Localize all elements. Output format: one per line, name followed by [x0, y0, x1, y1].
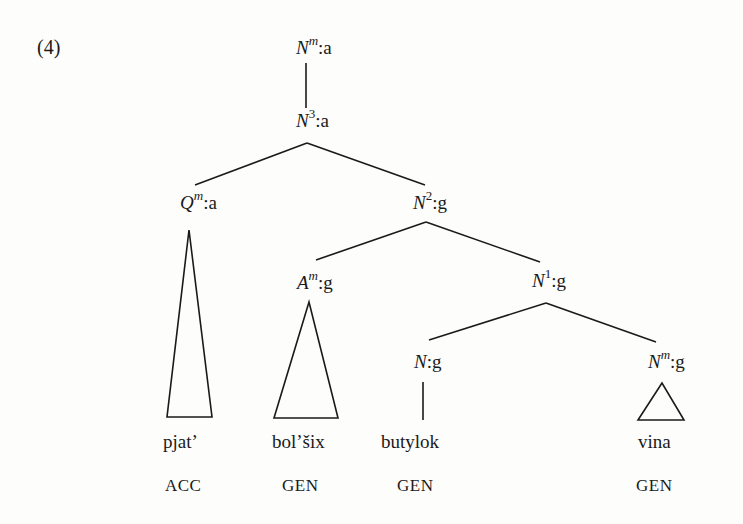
node-feature: :g [670, 351, 685, 372]
node-feature: :a [315, 110, 329, 131]
node-feature: :g [318, 272, 333, 293]
leaf-word-bolsix: bol’šix [272, 431, 325, 453]
node-n3: N3:a [296, 110, 329, 132]
node-sup: m [309, 33, 318, 48]
leaf-word-pjat: pjat’ [163, 431, 198, 453]
node-cat: N [296, 110, 309, 131]
node-cat: Q [180, 192, 194, 213]
node-sup: m [194, 188, 203, 203]
edge-n1-nm [546, 303, 656, 342]
node-root: Nm:a [296, 37, 332, 59]
node-sup: 3 [309, 106, 316, 121]
edge-n3-qm [195, 143, 307, 185]
leaf-word-vina: vina [638, 431, 671, 453]
triangle-qm [167, 230, 212, 417]
node-qm: Qm:a [180, 192, 217, 214]
edge-n2-am [316, 222, 426, 260]
node-n1: N1:g [532, 270, 566, 292]
node-feature: :g [551, 270, 566, 291]
example-number: (4) [37, 36, 60, 58]
node-cat: N [648, 351, 661, 372]
node-am: Am:g [297, 272, 333, 294]
case-gloss-gen-2: GEN [397, 475, 433, 497]
triangle-nm [638, 383, 684, 420]
edge-n2-n1 [426, 222, 540, 262]
leaf-word-butylok: butylok [381, 431, 439, 453]
edge-n3-n2 [307, 143, 425, 185]
node-nm: Nm:g [648, 351, 685, 373]
node-feature: :g [432, 192, 447, 213]
node-cat: N [414, 351, 427, 372]
tree-edges [0, 0, 743, 524]
case-gloss-gen-1: GEN [282, 475, 318, 497]
node-n2: N2:g [413, 192, 447, 214]
triangle-am [274, 302, 338, 418]
node-feature: :g [427, 351, 442, 372]
node-sup: 1 [545, 266, 552, 281]
node-feature: :a [318, 37, 332, 58]
node-sup: m [661, 347, 670, 362]
edge-n1-n [429, 303, 546, 340]
node-cat: N [413, 192, 426, 213]
case-gloss-gen-3: GEN [636, 475, 672, 497]
node-feature: :a [203, 192, 217, 213]
node-n: N:g [414, 351, 441, 373]
node-cat: N [296, 37, 309, 58]
node-cat: A [297, 272, 309, 293]
node-sup: 2 [426, 188, 433, 203]
node-sup: m [309, 268, 318, 283]
node-cat: N [532, 270, 545, 291]
case-gloss-acc: ACC [165, 475, 201, 497]
